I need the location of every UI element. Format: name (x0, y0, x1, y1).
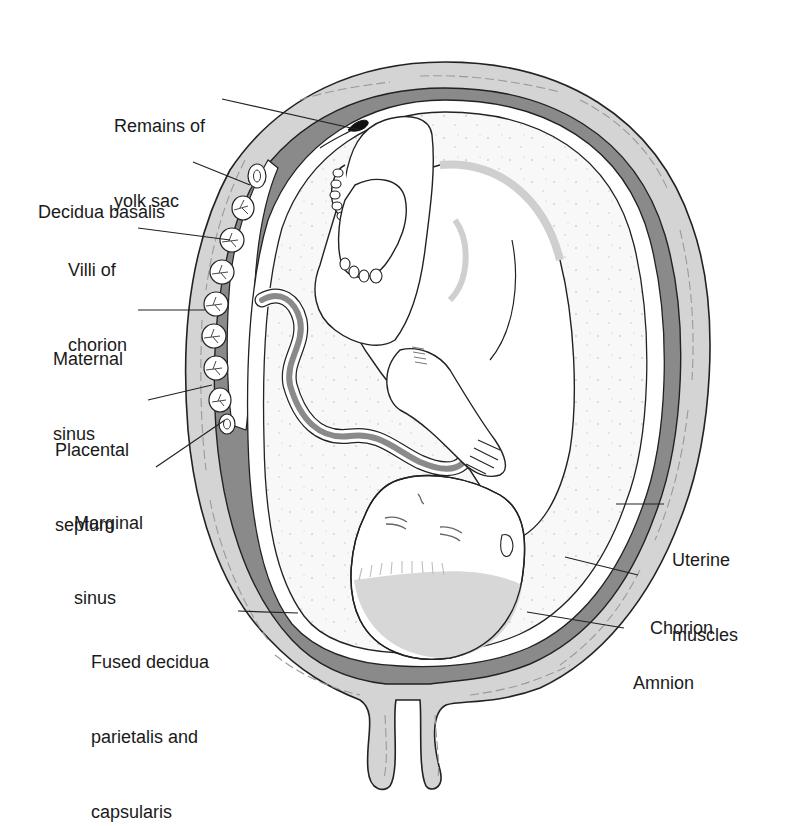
label-line: Maternal (53, 347, 123, 372)
label-line: Remains of (114, 114, 205, 139)
label-line: parietalis and (91, 725, 209, 750)
label-line: Marginal (74, 511, 143, 536)
label-line: Placental (55, 438, 129, 463)
label-amnion: Amnion (633, 621, 694, 746)
label-line: Fused decidua (91, 650, 209, 675)
label-line: capsularis (91, 800, 209, 825)
label-line: Amnion (633, 671, 694, 696)
label-fused-decidua: Fused decidua parietalis and capsularis (91, 600, 209, 826)
label-line: Villi of (68, 258, 127, 283)
